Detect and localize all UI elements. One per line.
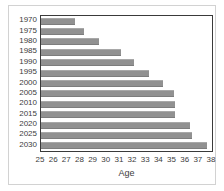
x-tick-label-26: 26 xyxy=(49,155,58,164)
bar-2030 xyxy=(41,142,207,149)
y-tick-label-1990: 1990 xyxy=(19,58,37,66)
bar-fill xyxy=(41,18,75,25)
bar-2025 xyxy=(41,132,192,139)
plot-area xyxy=(40,15,213,152)
bar-2005 xyxy=(41,90,174,97)
bar-2010 xyxy=(41,101,175,108)
bar-2020 xyxy=(41,122,190,129)
bar-fill xyxy=(41,70,149,77)
y-tick-label-1995: 1995 xyxy=(19,68,37,76)
bar-fill xyxy=(41,59,134,66)
x-tick-label-28: 28 xyxy=(75,155,84,164)
x-tick-label-31: 31 xyxy=(114,155,123,164)
x-tick-label-38: 38 xyxy=(207,155,216,164)
bar-fill xyxy=(41,132,192,139)
bar-fill xyxy=(41,142,207,149)
y-tick-label-2020: 2020 xyxy=(19,120,37,128)
bar-1990 xyxy=(41,59,134,66)
x-tick-label-34: 34 xyxy=(154,155,163,164)
bar-fill xyxy=(41,38,99,45)
x-axis-title: Age xyxy=(40,168,213,178)
bar-fill xyxy=(41,101,175,108)
bar-1985 xyxy=(41,49,121,56)
bar-1975 xyxy=(41,28,84,35)
y-tick-label-1980: 1980 xyxy=(19,37,37,45)
bar-2000 xyxy=(41,80,163,87)
x-axis-tick-labels: 2526272829303132333435363738 xyxy=(40,155,213,166)
bar-1995 xyxy=(41,70,149,77)
y-tick-label-2025: 2025 xyxy=(19,130,37,138)
y-tick-label-1975: 1975 xyxy=(19,27,37,35)
y-tick-label-1970: 1970 xyxy=(19,16,37,24)
bar-fill xyxy=(41,28,84,35)
x-tick-label-35: 35 xyxy=(167,155,176,164)
bar-fill xyxy=(41,122,190,129)
bar-1970 xyxy=(41,18,75,25)
y-axis-labels: 1970197519801985199019952000200520102015… xyxy=(8,15,39,152)
bar-fill xyxy=(41,49,121,56)
x-tick-label-25: 25 xyxy=(36,155,45,164)
y-tick-label-2005: 2005 xyxy=(19,89,37,97)
y-tick-label-2015: 2015 xyxy=(19,110,37,118)
bar-fill xyxy=(41,90,174,97)
x-tick-label-32: 32 xyxy=(128,155,137,164)
bar-fill xyxy=(41,80,163,87)
x-tick-label-29: 29 xyxy=(88,155,97,164)
x-tick-label-36: 36 xyxy=(180,155,189,164)
x-tick-label-30: 30 xyxy=(101,155,110,164)
x-tick-label-37: 37 xyxy=(193,155,202,164)
y-tick-label-1985: 1985 xyxy=(19,47,37,55)
x-tick-label-33: 33 xyxy=(141,155,150,164)
bar-chart-figure: 1970197519801985199019952000200520102015… xyxy=(0,0,224,191)
x-tick-label-27: 27 xyxy=(62,155,71,164)
y-tick-label-2000: 2000 xyxy=(19,79,37,87)
bar-1980 xyxy=(41,38,99,45)
y-tick-label-2010: 2010 xyxy=(19,99,37,107)
bar-fill xyxy=(41,111,175,118)
y-tick-label-2030: 2030 xyxy=(19,141,37,149)
bar-2015 xyxy=(41,111,175,118)
